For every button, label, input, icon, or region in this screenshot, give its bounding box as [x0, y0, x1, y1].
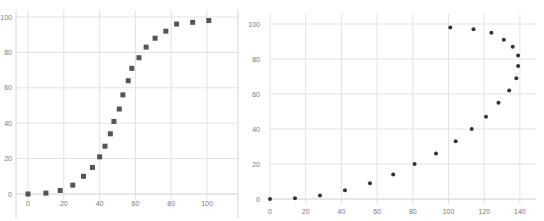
- data-point-marker: [70, 183, 75, 188]
- data-point-marker: [489, 31, 493, 35]
- data-point-marker: [120, 92, 125, 97]
- data-point-marker: [111, 119, 116, 124]
- data-point-marker: [413, 162, 417, 166]
- y-tick-label: 40: [252, 126, 260, 133]
- data-point-marker: [368, 181, 372, 185]
- x-tick-label: 100: [443, 208, 455, 215]
- y-tick-label: 0: [8, 191, 12, 198]
- y-tick-label: 60: [4, 84, 12, 91]
- data-point-marker: [268, 197, 272, 201]
- right-scatter-plot: 020406080100020406080100120140: [240, 0, 544, 221]
- y-tick-label: 100: [248, 21, 260, 28]
- data-point-marker: [484, 115, 488, 119]
- data-point-marker: [496, 101, 500, 105]
- x-tick-label: 40: [96, 200, 104, 207]
- data-point-marker: [470, 127, 474, 131]
- y-tick-label: 20: [252, 161, 260, 168]
- data-point-marker: [43, 191, 48, 196]
- data-point-marker: [454, 139, 458, 143]
- x-tick-label: 0: [26, 200, 30, 207]
- left-scatter-chart: 020406080100020406080100: [0, 0, 240, 221]
- x-tick-label: 40: [338, 208, 346, 215]
- y-tick-label: 80: [252, 56, 260, 63]
- x-tick-label: 60: [132, 200, 140, 207]
- data-point-marker: [190, 20, 195, 25]
- data-points: [26, 18, 212, 196]
- data-point-marker: [502, 38, 506, 42]
- data-point-marker: [516, 64, 520, 68]
- y-tick-label: 80: [4, 49, 12, 56]
- x-tick-label: 20: [302, 208, 310, 215]
- data-point-marker: [58, 188, 63, 193]
- gridlines: [270, 14, 536, 204]
- data-point-marker: [90, 165, 95, 170]
- x-axis-labels: 020406080100: [26, 200, 213, 207]
- x-tick-label: 80: [409, 208, 417, 215]
- data-point-marker: [174, 22, 179, 27]
- data-point-marker: [102, 144, 107, 149]
- data-point-marker: [136, 55, 141, 60]
- data-point-marker: [126, 78, 131, 83]
- x-tick-label: 0: [268, 208, 272, 215]
- data-point-marker: [448, 26, 452, 30]
- y-tick-label: 40: [4, 120, 12, 127]
- data-point-marker: [153, 36, 158, 41]
- y-axis-labels: 020406080100: [248, 21, 260, 203]
- y-tick-label: 20: [4, 155, 12, 162]
- data-point-marker: [163, 29, 168, 34]
- x-tick-label: 100: [201, 200, 213, 207]
- x-tick-label: 140: [514, 208, 526, 215]
- data-point-marker: [434, 152, 438, 156]
- left-scatter-plot: 020406080100020406080100: [0, 0, 240, 221]
- data-point-marker: [117, 107, 122, 112]
- x-tick-label: 60: [373, 208, 381, 215]
- x-tick-label: 20: [60, 200, 68, 207]
- data-point-marker: [391, 173, 395, 177]
- y-tick-label: 0: [256, 196, 260, 203]
- data-point-marker: [507, 89, 511, 93]
- x-tick-label: 80: [167, 200, 175, 207]
- data-point-marker: [343, 188, 347, 192]
- data-point-marker: [108, 131, 113, 136]
- y-tick-label: 100: [0, 14, 12, 21]
- data-point-marker: [144, 45, 149, 50]
- data-point-marker: [318, 194, 322, 198]
- y-axis-labels: 020406080100: [0, 14, 12, 198]
- y-tick-label: 60: [252, 91, 260, 98]
- data-point-marker: [511, 45, 515, 49]
- data-point-marker: [129, 66, 134, 71]
- data-point-marker: [514, 76, 518, 80]
- x-tick-label: 120: [478, 208, 490, 215]
- data-point-marker: [97, 154, 102, 159]
- gridlines: [16, 10, 238, 218]
- data-point-marker: [471, 27, 475, 31]
- data-point-marker: [26, 192, 31, 197]
- data-point-marker: [81, 174, 86, 179]
- x-axis-labels: 020406080100120140: [268, 208, 526, 215]
- data-point-marker: [293, 196, 297, 200]
- right-scatter-chart: 020406080100020406080100120140: [240, 0, 544, 221]
- data-point-marker: [516, 54, 520, 58]
- data-point-marker: [206, 18, 211, 23]
